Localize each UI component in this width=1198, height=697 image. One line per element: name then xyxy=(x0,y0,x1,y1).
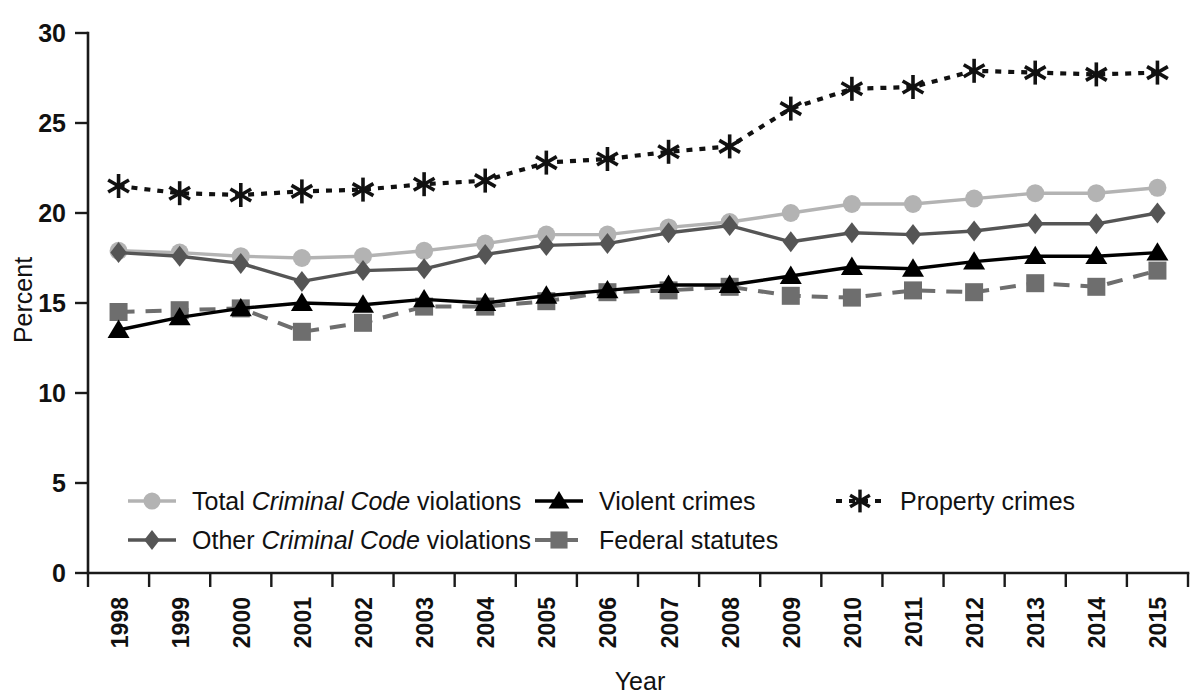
x-tick-label-1999: 1999 xyxy=(168,597,194,648)
legend-label: Property crimes xyxy=(900,487,1075,515)
x-tick-label-2005: 2005 xyxy=(534,597,560,648)
x-tick-label-2015: 2015 xyxy=(1145,597,1171,648)
marker-asterisk xyxy=(475,169,496,193)
marker-square xyxy=(1087,278,1105,296)
x-tick-label-2004: 2004 xyxy=(473,597,499,648)
chart-series-group xyxy=(108,59,1169,341)
marker-circle xyxy=(965,190,983,208)
x-tick-label-2012: 2012 xyxy=(962,597,988,648)
marker-circle xyxy=(1026,184,1044,202)
legend-item-other-criminal-code-violations[interactable]: Other Criminal Code violations xyxy=(128,526,531,554)
y-tick-label-25: 25 xyxy=(38,109,66,137)
marker-asterisk xyxy=(1147,61,1168,85)
marker-diamond xyxy=(1027,213,1043,234)
y-axis-title: Percent xyxy=(9,257,37,343)
chart-legend: Total Criminal Code violationsOther Crim… xyxy=(128,487,1075,554)
marker-circle xyxy=(143,492,160,509)
legend-item-federal-statutes[interactable]: Federal statutes xyxy=(535,526,778,554)
marker-diamond xyxy=(294,271,310,292)
marker-diamond xyxy=(1149,203,1165,224)
series-line xyxy=(119,188,1158,258)
marker-asterisk xyxy=(536,151,557,175)
legend-item-total-criminal-code-violations[interactable]: Total Criminal Code violations xyxy=(128,487,521,515)
marker-diamond xyxy=(144,530,160,550)
marker-circle xyxy=(1148,179,1166,197)
x-axis-ticks: 1998199920002001200220032004200520062007… xyxy=(88,573,1188,648)
legend-label: Violent crimes xyxy=(599,487,756,515)
series-line xyxy=(119,71,1158,195)
marker-circle xyxy=(843,195,861,213)
marker-square xyxy=(904,281,922,299)
legend-label: Federal statutes xyxy=(599,526,778,554)
legend-item-property-crimes[interactable]: Property crimes xyxy=(836,487,1075,515)
marker-square xyxy=(843,289,861,307)
x-tick-label-2007: 2007 xyxy=(657,597,683,648)
x-tick-label-2011: 2011 xyxy=(901,597,927,647)
marker-square xyxy=(782,287,800,305)
series-federal-statutes xyxy=(110,262,1167,341)
y-tick-label-0: 0 xyxy=(52,559,66,587)
x-tick-label-2008: 2008 xyxy=(718,597,744,648)
x-tick-label-2009: 2009 xyxy=(779,597,805,648)
marker-asterisk xyxy=(230,183,251,207)
line-chart: 051015202530 199819992000200120022003200… xyxy=(0,0,1198,697)
x-tick-label-2006: 2006 xyxy=(595,597,621,648)
y-tick-label-15: 15 xyxy=(38,289,66,317)
x-tick-label-2001: 2001 xyxy=(290,597,316,648)
marker-circle xyxy=(1087,184,1105,202)
x-axis-title: Year xyxy=(615,667,666,695)
y-tick-label-10: 10 xyxy=(38,379,66,407)
marker-square xyxy=(1148,262,1166,280)
series-other-criminal-code-violations xyxy=(110,203,1165,292)
marker-diamond xyxy=(966,221,982,242)
x-tick-label-1998: 1998 xyxy=(107,597,133,648)
legend-label: Other Criminal Code violations xyxy=(192,526,531,554)
marker-diamond xyxy=(416,258,432,279)
marker-diamond xyxy=(844,222,860,243)
marker-asterisk xyxy=(964,59,985,83)
y-tick-label-30: 30 xyxy=(38,19,66,47)
x-tick-label-2000: 2000 xyxy=(229,597,255,648)
marker-square xyxy=(110,303,128,321)
y-tick-label-5: 5 xyxy=(52,469,66,497)
x-tick-label-2014: 2014 xyxy=(1084,597,1110,648)
series-line xyxy=(119,213,1158,281)
series-line xyxy=(119,271,1158,332)
marker-asterisk xyxy=(291,179,312,203)
marker-square xyxy=(354,314,372,332)
marker-diamond xyxy=(905,224,921,245)
x-tick-label-2010: 2010 xyxy=(840,597,866,648)
x-tick-label-2003: 2003 xyxy=(412,597,438,648)
marker-triangle xyxy=(1146,242,1168,260)
series-total-criminal-code-violations xyxy=(110,179,1167,267)
marker-diamond xyxy=(355,260,371,281)
marker-diamond xyxy=(783,231,799,252)
marker-circle xyxy=(415,242,433,260)
y-axis-ticks: 051015202530 xyxy=(38,19,88,587)
marker-asterisk xyxy=(1025,61,1046,85)
x-tick-label-2002: 2002 xyxy=(351,597,377,648)
marker-diamond xyxy=(1088,213,1104,234)
marker-circle xyxy=(782,204,800,222)
legend-item-violent-crimes[interactable]: Violent crimes xyxy=(535,487,756,515)
marker-asterisk xyxy=(780,97,801,121)
marker-square xyxy=(965,283,983,301)
marker-square xyxy=(550,531,567,548)
marker-asterisk xyxy=(108,174,129,198)
marker-square xyxy=(293,323,311,341)
marker-asterisk xyxy=(719,134,740,158)
y-tick-label-20: 20 xyxy=(38,199,66,227)
series-property-crimes xyxy=(108,59,1168,207)
marker-circle xyxy=(904,195,922,213)
legend-label: Total Criminal Code violations xyxy=(192,487,521,515)
chart-canvas: 051015202530 199819992000200120022003200… xyxy=(0,0,1198,697)
marker-square xyxy=(1026,274,1044,292)
x-tick-label-2013: 2013 xyxy=(1023,597,1049,648)
marker-circle xyxy=(293,249,311,267)
